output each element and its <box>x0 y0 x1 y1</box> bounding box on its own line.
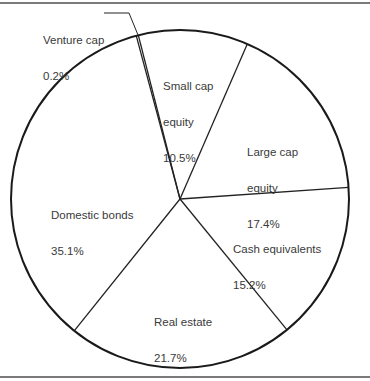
label-cash-equivalents: Cash equivalents 15.2% <box>233 219 321 303</box>
label-real-estate: Real estate 21.7% <box>154 292 212 376</box>
domestic-bonds-name: Domestic bonds <box>51 209 133 221</box>
small-cap-name-1: Small cap <box>163 80 214 92</box>
small-cap-name-2: equity <box>163 116 214 128</box>
cash-pct: 15.2% <box>233 279 321 291</box>
domestic-bonds-pct: 35.1% <box>51 245 133 257</box>
label-domestic-bonds: Domestic bonds 35.1% <box>51 185 133 269</box>
venture-cap-leader-line <box>104 13 138 35</box>
large-cap-name-1: Large cap <box>247 146 298 158</box>
small-cap-pct: 10.5% <box>163 152 214 164</box>
label-small-cap: Small cap equity 10.5% <box>163 56 214 176</box>
label-venture-cap: Venture cap 0.2% <box>43 10 104 94</box>
venture-cap-name: Venture cap <box>43 34 104 46</box>
cash-name: Cash equivalents <box>233 243 321 255</box>
venture-cap-pct: 0.2% <box>43 70 104 82</box>
real-estate-pct: 21.7% <box>154 352 212 364</box>
real-estate-name: Real estate <box>154 316 212 328</box>
large-cap-name-2: equity <box>247 182 298 194</box>
